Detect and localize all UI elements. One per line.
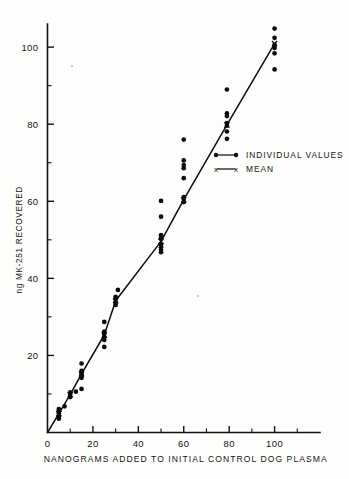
paper-speck (71, 65, 73, 67)
data-point (102, 345, 107, 350)
chart-legend: INDIVIDUAL VALUESxxMEAN (214, 150, 344, 174)
axis-lines (48, 24, 321, 433)
legend-dot (214, 153, 218, 157)
data-point (68, 390, 73, 395)
data-point (57, 407, 62, 412)
x-tick-label: 80 (223, 438, 234, 449)
data-point (272, 36, 277, 41)
legend-item: INDIVIDUAL VALUES (214, 150, 344, 160)
y-tick-label: 40 (27, 273, 38, 284)
x-tick-label: 60 (178, 438, 189, 449)
data-point (116, 288, 121, 293)
data-point (225, 129, 230, 134)
ticks-group (48, 47, 298, 432)
data-point (79, 361, 84, 366)
y-tick-label: 80 (27, 119, 38, 130)
legend-dot (234, 153, 238, 157)
scatter-plot: 20406080100020406080100 NANOGRAMS ADDED … (0, 0, 349, 479)
x-tick-label: 100 (266, 438, 283, 449)
y-tick-label: 60 (27, 196, 38, 207)
legend-item: xxMEAN (214, 164, 274, 174)
axes-group (48, 24, 321, 433)
y-tick-label: 100 (21, 42, 38, 53)
data-point (113, 295, 118, 300)
data-point (159, 233, 164, 238)
data-point (159, 214, 164, 219)
x-tick-label: 0 (45, 438, 51, 449)
data-point (272, 26, 277, 31)
y-tick-label: 20 (27, 350, 38, 361)
tick-labels-group: 20406080100020406080100 (21, 42, 283, 449)
data-point (225, 136, 230, 141)
data-point (181, 158, 186, 163)
data-point (181, 163, 186, 168)
data-point (181, 137, 186, 142)
data-point (62, 404, 67, 409)
data-point (79, 387, 84, 392)
data-point (272, 51, 277, 56)
data-point (74, 389, 79, 394)
x-tick-label: 20 (87, 438, 98, 449)
data-point (102, 329, 107, 334)
x-tick-label: 40 (133, 438, 144, 449)
data-point (79, 368, 84, 373)
data-point (159, 199, 164, 204)
legend-label: INDIVIDUAL VALUES (246, 150, 344, 160)
legend-x-marker: x (214, 165, 218, 174)
y-axis-title: ng MK-251 RECOVERED (15, 186, 24, 294)
data-point (225, 121, 230, 126)
data-point (181, 195, 186, 200)
axis-titles: NANOGRAMS ADDED TO INITIAL CONTROL DOG P… (15, 186, 328, 464)
data-point (181, 176, 186, 181)
data-point (159, 242, 164, 247)
data-point (225, 111, 230, 116)
data-points (57, 26, 277, 421)
legend-x-marker: x (234, 165, 238, 174)
legend-label: MEAN (246, 164, 274, 174)
data-point (272, 42, 277, 47)
x-axis-title: NANOGRAMS ADDED TO INITIAL CONTROL DOG P… (44, 454, 328, 464)
data-point (272, 67, 277, 72)
data-point (102, 320, 107, 325)
data-point (225, 87, 230, 92)
paper-speck (197, 295, 199, 297)
figure-container: 20406080100020406080100 NANOGRAMS ADDED … (0, 0, 349, 479)
